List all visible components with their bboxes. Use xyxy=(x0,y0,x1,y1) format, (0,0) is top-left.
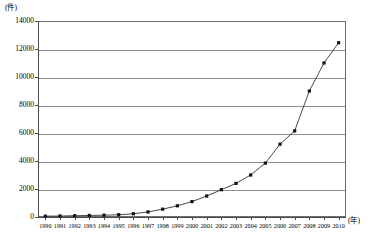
data-point-marker xyxy=(190,200,193,203)
x-axis-tick-label: 1996 xyxy=(127,222,139,230)
y-axis-tick-label: 0 xyxy=(30,213,34,221)
x-axis-tick-mark xyxy=(295,217,296,220)
y-axis-tick-label: 2000 xyxy=(19,185,34,193)
x-axis-tick-mark xyxy=(251,217,252,220)
data-point-marker xyxy=(234,182,237,185)
x-axis-tick-mark xyxy=(75,217,76,220)
x-axis-tick-label: 2008 xyxy=(303,222,315,230)
x-axis-tick-mark xyxy=(163,217,164,220)
y-axis-tick-label: 14000 xyxy=(15,17,34,25)
x-axis-tick-mark xyxy=(207,217,208,220)
x-axis-unit-label: (年) xyxy=(348,216,360,225)
data-point-marker xyxy=(264,162,267,165)
x-axis-tick-mark xyxy=(177,217,178,220)
x-axis-tick-mark xyxy=(119,217,120,220)
x-axis-tick-label: 2002 xyxy=(215,222,227,230)
data-point-marker xyxy=(249,173,252,176)
x-axis-tick-label: 1991 xyxy=(54,222,66,230)
x-axis-tick-label: 2000 xyxy=(186,222,198,230)
data-point-marker xyxy=(293,129,296,132)
x-axis-tick-mark xyxy=(60,217,61,220)
x-axis-tick-label: 2009 xyxy=(318,222,330,230)
x-axis-tick-label: 2005 xyxy=(259,222,271,230)
x-axis-tick-mark xyxy=(309,217,310,220)
data-point-marker xyxy=(132,212,135,215)
data-series-line xyxy=(38,21,346,217)
x-axis-tick-label: 2010 xyxy=(332,222,344,230)
data-point-marker xyxy=(176,204,179,207)
data-point-marker xyxy=(161,208,164,211)
x-axis-tick-label: 1992 xyxy=(68,222,80,230)
x-axis-tick-mark xyxy=(339,217,340,220)
x-axis-tick-label: 2007 xyxy=(288,222,300,230)
y-axis-tick-labels: 02000400060008000100001200014000 xyxy=(0,21,34,217)
data-point-marker xyxy=(220,188,223,191)
x-axis-tick-mark xyxy=(104,217,105,220)
data-point-marker xyxy=(117,213,120,216)
x-axis-tick-mark xyxy=(221,217,222,220)
x-axis-tick-label: 2001 xyxy=(200,222,212,230)
data-point-marker xyxy=(278,143,281,146)
y-axis-tick-label: 12000 xyxy=(15,45,34,53)
y-axis-tick-label: 8000 xyxy=(19,101,34,109)
x-axis-tick-mark xyxy=(89,217,90,220)
y-axis-tick-label: 10000 xyxy=(15,73,34,81)
data-point-marker xyxy=(205,194,208,197)
x-axis-tick-mark xyxy=(236,217,237,220)
y-axis-tick-label: 4000 xyxy=(19,157,34,165)
x-axis-tick-mark xyxy=(45,217,46,220)
line-chart: (件) 02000400060008000100001200014000 (年)… xyxy=(0,0,373,236)
x-axis-tick-label: 1993 xyxy=(83,222,95,230)
x-axis-tick-mark xyxy=(265,217,266,220)
x-axis-tick-label: 2003 xyxy=(230,222,242,230)
data-point-marker xyxy=(146,210,149,213)
x-axis-tick-mark xyxy=(148,217,149,220)
x-axis-tick-label: 1990 xyxy=(39,222,51,230)
x-axis-tick-mark xyxy=(280,217,281,220)
x-axis-tick-label: 1995 xyxy=(112,222,124,230)
x-axis-tick-label: 1994 xyxy=(98,222,110,230)
x-axis-tick-mark xyxy=(192,217,193,220)
x-axis-tick-label: 1997 xyxy=(142,222,154,230)
x-axis-tick-label: 2006 xyxy=(274,222,286,230)
x-axis-tick-mark xyxy=(324,217,325,220)
x-axis-tick-label: 1999 xyxy=(171,222,183,230)
x-axis-tick-mark xyxy=(133,217,134,220)
data-point-marker xyxy=(308,89,311,92)
x-axis-tick-label: 1998 xyxy=(156,222,168,230)
y-axis-tick-label: 6000 xyxy=(19,129,34,137)
data-point-marker xyxy=(322,61,325,64)
x-axis-tick-label: 2004 xyxy=(244,222,256,230)
y-axis-unit-label: (件) xyxy=(5,3,17,12)
data-point-marker xyxy=(337,41,340,44)
